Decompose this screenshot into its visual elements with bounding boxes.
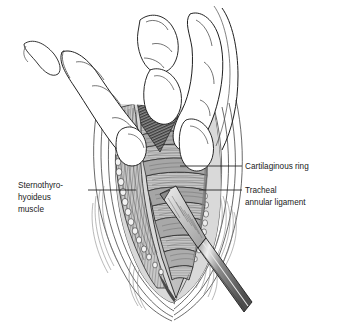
label-tracheal-annular-ligament-line1: Tracheal	[245, 186, 277, 195]
label-sternothyrohyoideus-line2: hyoideus	[18, 193, 51, 202]
label-sternothyrohyoideus-line1: Sternothyro-	[18, 181, 63, 190]
tracheotomy-illustration: Cartilaginous ring Tracheal annular liga…	[0, 0, 343, 330]
illustration-canvas: Cartilaginous ring Tracheal annular liga…	[0, 0, 343, 330]
label-sternothyrohyoideus-line3: muscle	[18, 205, 44, 214]
label-cartilaginous-ring: Cartilaginous ring	[245, 162, 309, 171]
label-tracheal-annular-ligament-line2: annular ligament	[245, 198, 306, 207]
